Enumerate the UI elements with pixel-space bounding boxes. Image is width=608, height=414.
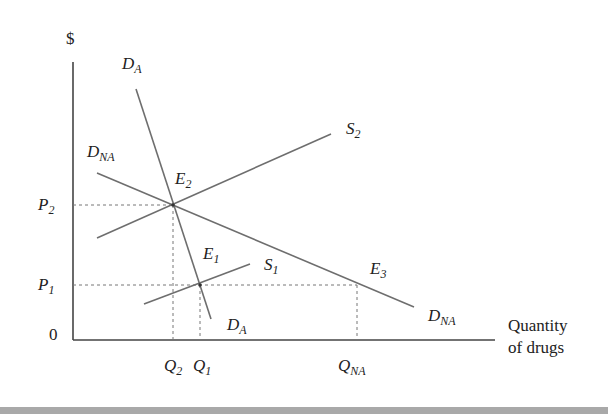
- da-bottom-sub: A: [239, 323, 246, 337]
- da-top-main: D: [122, 54, 134, 73]
- e2-main: E: [175, 169, 185, 188]
- da-top-sub: A: [134, 62, 141, 76]
- qna-label: QNA: [338, 357, 366, 377]
- bottom-divider: [0, 407, 608, 414]
- e3-main: E: [370, 259, 380, 278]
- qna-main: Q: [338, 356, 350, 375]
- e1-sub: 1: [213, 252, 219, 266]
- x-axis-label-line2: of drugs: [508, 339, 564, 356]
- e1-main: E: [203, 244, 213, 263]
- s1-label: S1: [264, 256, 279, 276]
- dna-right-sub: NA: [440, 314, 455, 328]
- da-bottom-main: D: [227, 315, 239, 334]
- e3-label: E3: [370, 260, 386, 280]
- e1-label: E1: [203, 245, 219, 265]
- da-top-label: DA: [122, 55, 142, 75]
- demand-nonaddicts-curve: [97, 173, 414, 307]
- p2-main: P: [38, 195, 48, 214]
- dna-left-sub: NA: [99, 150, 114, 164]
- p2-sub: 2: [48, 203, 54, 217]
- q1-main: Q: [193, 356, 205, 375]
- supply-1-curve: [144, 264, 250, 304]
- q2-sub: 2: [176, 364, 182, 378]
- da-bottom-label: DA: [227, 316, 247, 336]
- s2-main: S: [346, 119, 355, 138]
- y-axis-label: $: [66, 30, 75, 47]
- p1-label: P1: [38, 276, 54, 296]
- dna-left-label: DNA: [87, 143, 115, 163]
- dna-right-label: DNA: [428, 307, 456, 327]
- s2-label: S2: [346, 120, 361, 140]
- q1-sub: 1: [205, 364, 211, 378]
- p2-label: P2: [38, 196, 54, 216]
- q1-label: Q1: [193, 357, 211, 377]
- dna-left-main: D: [87, 142, 99, 161]
- q2-label: Q2: [164, 357, 182, 377]
- origin-label: 0: [49, 326, 58, 343]
- e2-sub: 2: [185, 177, 191, 191]
- p1-main: P: [38, 275, 48, 294]
- s1-sub: 1: [273, 263, 279, 277]
- qna-sub: NA: [350, 364, 365, 378]
- e3-sub: 3: [380, 267, 386, 281]
- s1-main: S: [264, 255, 273, 274]
- q2-main: Q: [164, 356, 176, 375]
- dna-right-main: D: [428, 306, 440, 325]
- s2-sub: 2: [355, 127, 361, 141]
- e1-point: [198, 283, 202, 287]
- x-axis-label-line1: Quantity: [508, 317, 568, 334]
- p1-sub: 1: [48, 283, 54, 297]
- e2-label: E2: [175, 170, 191, 190]
- e2-point: [171, 203, 175, 207]
